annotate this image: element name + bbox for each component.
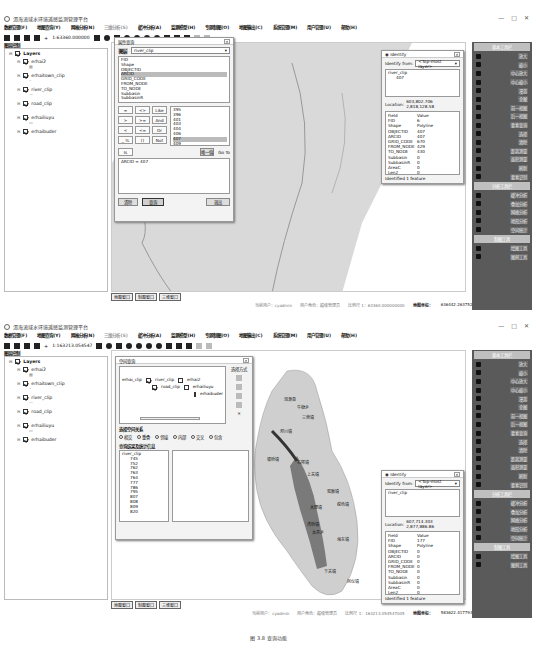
layer-relation-canvas[interactable]: erhai_clip river_clip erhai2 road_clip e… [119,366,226,424]
full-extent-icon[interactable] [136,343,142,349]
layer-checkbox[interactable] [23,87,28,92]
identify-from-select[interactable]: <Top-most layer>▾ [415,60,460,67]
is-button[interactable]: Is [118,148,133,156]
radio-touch[interactable]: 邻接 [155,434,168,440]
result-statistics[interactable] [172,450,249,522]
dock-item-stats[interactable]: 空间统计 [472,225,532,234]
layers-root[interactable]: ⊟Layers [9,51,103,56]
op-equal[interactable]: = [118,106,133,114]
dock-item-select[interactable]: 选择 [472,437,532,446]
menu-3d[interactable]: 三维分析(S) [104,332,127,340]
scale-input[interactable]: 1:63360.000000 [52,35,89,40]
pan-icon[interactable] [126,343,132,349]
dock-item-full[interactable]: 全图 [472,403,532,412]
radio-contains[interactable]: 包含 [209,434,222,440]
unique-values-button[interactable]: 唯一值 [200,148,214,156]
op-not-equal[interactable]: <> [135,106,150,114]
menu-map-query[interactable]: 地图查询(Y) [37,332,60,340]
op-lte[interactable]: <= [135,126,150,134]
save-icon[interactable] [24,35,30,41]
dock-item-center-out[interactable]: 中心缩小 [472,78,532,87]
back-icon[interactable] [146,343,152,349]
dock-item-legend[interactable]: 图例工具 [472,560,532,569]
op-paren[interactable]: () [135,136,150,144]
identify-from-select[interactable]: <Top-most layer>▾ [415,480,460,487]
dock-item-legend[interactable]: 图例工具 [472,252,532,261]
edit-icon[interactable] [196,343,202,349]
dock-item-zoom-out[interactable]: 缩小 [472,369,532,378]
dock-item-area[interactable]: 面积测量 [472,155,532,164]
value-list[interactable]: 395 396 401 403 404 406 407 409 [170,106,230,146]
op-and[interactable]: And [152,116,167,124]
refresh-icon[interactable] [206,343,212,349]
identify-tree[interactable]: river_clip [385,489,460,517]
plus-icon[interactable]: + [44,35,48,41]
menu-output[interactable]: 地图输出(C) [239,24,262,32]
minimize-button[interactable]: — [498,322,504,329]
add-data-icon[interactable] [34,35,40,41]
maximize-button[interactable]: □ [511,322,517,329]
clear-selection-icon[interactable]: ✕ [237,411,241,416]
menu-buffer[interactable]: 缓冲分析(A) [138,332,162,340]
dock-item-full[interactable]: 全图 [472,95,532,104]
zoom-in-icon[interactable] [96,343,102,349]
menu-data[interactable]: 数据管理(F) [4,24,27,32]
new-icon[interactable] [4,343,10,349]
save-icon[interactable] [24,343,30,349]
dock-item-refresh[interactable]: 刷新 [472,164,532,173]
radio-intersect[interactable]: 相交 [119,434,132,440]
layer-checkbox[interactable] [23,381,28,386]
dock-item-draw[interactable]: 绘图工具 [472,244,532,253]
op-gt[interactable]: > [118,116,133,124]
dock-item-pan[interactable]: 漫游 [472,86,532,95]
identify-tree[interactable]: river_clip 407 [385,69,460,97]
dock-item-refresh[interactable]: 刷新 [472,472,532,481]
dock-item-identify[interactable]: 要素识别 [472,480,532,489]
dock-item-terrain[interactable]: 地形分析 [472,217,532,226]
dock-item-network[interactable]: 网络分析 [472,516,532,525]
layer-select[interactable]: river_clip▾ [131,47,230,54]
op-gte[interactable]: >= [135,116,150,124]
menu-buffer[interactable]: 缓冲分析(A) [138,24,162,32]
identify-attributes-table[interactable]: FieldValue FID6 ShapePolyline OBJECTID40… [385,111,460,175]
close-icon[interactable]: ✕ [224,39,230,44]
menu-help[interactable]: 帮助(H) [341,24,357,32]
menu-thematic[interactable]: 专题制图(O) [205,24,229,32]
dock-item-center-in[interactable]: 中心放大 [472,377,532,386]
op-lt[interactable]: < [118,126,133,134]
field-list[interactable]: FID Shape OBJECTID ARCID GRID_CODE FROM_… [118,56,230,103]
dock-item-overlay[interactable]: 叠加分析 [472,200,532,209]
minimize-button[interactable]: — [498,14,504,21]
op-or[interactable]: Or [152,126,167,134]
close-button[interactable]: ✕ [524,322,529,329]
new-icon[interactable] [4,35,10,41]
measure-icon[interactable] [176,343,182,349]
dock-item-clear[interactable]: 清除 [472,138,532,147]
horizontal-scrollbar[interactable] [140,417,200,420]
dock-item-center-in[interactable]: 中心放大 [472,69,532,78]
layer-checkbox[interactable] [23,101,28,106]
dock-item-network[interactable]: 网络分析 [472,208,532,217]
dock-item-feature-query[interactable]: 要素查询 [472,121,532,130]
menu-output[interactable]: 地图输出(C) [239,332,262,340]
zoom-out-icon[interactable] [104,35,110,41]
close-button[interactable]: ✕ [524,14,529,21]
layer-checkbox[interactable] [194,392,196,397]
dock-item-zoom-in[interactable]: 放大 [472,52,532,61]
identify-attributes-table[interactable]: FieldValue FID177 ShapePolyline OBJECTID… [385,531,460,595]
add-data-icon[interactable] [34,343,40,349]
select-icon[interactable] [166,343,172,349]
query-button[interactable]: 查询 [142,198,164,206]
radio-cross[interactable]: 交叉 [191,434,204,440]
dock-item-distance[interactable]: 距离测量 [472,455,532,464]
layer-checkbox[interactable] [23,59,28,64]
zoom-out-icon[interactable] [106,343,112,349]
dock-item-identify[interactable]: 要素识别 [472,172,532,181]
dock-item-next[interactable]: 后一视图 [472,420,532,429]
layer-checkbox[interactable] [146,378,151,383]
point-select-icon[interactable] [236,402,242,408]
layer-checkbox[interactable] [23,423,28,428]
dock-item-stats[interactable]: 空间统计 [472,533,532,542]
result-tree[interactable]: river_clip 745 752 762 763 764 777 786 7… [119,450,169,522]
layer-checkbox[interactable] [184,385,189,390]
